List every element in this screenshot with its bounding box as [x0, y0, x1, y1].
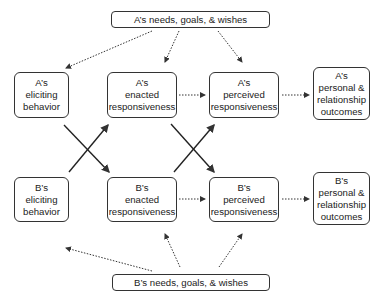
box-line: responsiveness [109, 101, 176, 113]
box-line: responsiveness [211, 101, 278, 113]
diagram-canvas: A’s needs, goals, & wishes A’s eliciting… [0, 0, 380, 307]
box-line: B’s [135, 182, 148, 194]
box-line: eliciting [26, 194, 58, 206]
connector-arrows [0, 0, 380, 307]
box-line: A’s [335, 70, 347, 82]
box-line: relationship [317, 199, 366, 211]
box-line: behavior [23, 101, 60, 113]
a-needs-goals-wishes-box: A’s needs, goals, & wishes [111, 11, 270, 28]
box-line: responsiveness [109, 206, 176, 218]
b-eliciting-behavior-box: B’s eliciting behavior [14, 177, 69, 222]
box-line: B’s [335, 175, 348, 187]
box-line: personal & [319, 82, 365, 94]
box-line: A’s [35, 77, 47, 89]
box-line: enacted [125, 89, 159, 101]
box-line: perceived [223, 194, 265, 206]
box-line: B’s [35, 182, 48, 194]
box-line: behavior [23, 206, 60, 218]
a-enacted-responsiveness-box: A’s enacted responsiveness [107, 72, 177, 118]
a-outcomes-box: A’s personal & relationship outcomes [313, 67, 370, 120]
box-line: perceived [223, 89, 265, 101]
b-needs-label: B’s needs, goals, & wishes [134, 277, 248, 289]
box-line: personal & [319, 187, 365, 199]
box-line: B’s [237, 182, 250, 194]
box-line: A’s [238, 77, 250, 89]
box-line: responsiveness [211, 206, 278, 218]
a-eliciting-behavior-box: A’s eliciting behavior [14, 72, 69, 118]
b-outcomes-box: B’s personal & relationship outcomes [313, 172, 370, 225]
box-line: enacted [125, 194, 159, 206]
a-needs-label: A’s needs, goals, & wishes [134, 14, 247, 26]
box-line: eliciting [26, 89, 58, 101]
box-line: A’s [136, 77, 148, 89]
b-needs-goals-wishes-box: B’s needs, goals, & wishes [112, 274, 270, 291]
box-line: outcomes [321, 106, 363, 118]
box-line: relationship [317, 94, 366, 106]
b-enacted-responsiveness-box: B’s enacted responsiveness [107, 177, 177, 222]
b-perceived-responsiveness-box: B’s perceived responsiveness [209, 177, 279, 222]
box-line: outcomes [321, 211, 363, 223]
a-perceived-responsiveness-box: A’s perceived responsiveness [209, 72, 279, 118]
